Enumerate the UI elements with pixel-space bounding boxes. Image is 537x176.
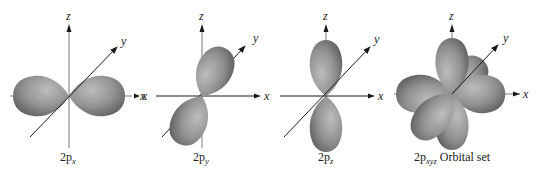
panel-2pxyz: z x y 2pxyz Orbital set — [394, 9, 529, 166]
caption-2pz: 2pz — [318, 150, 334, 166]
y-axis-label: y — [252, 31, 259, 45]
z-arrow-icon — [324, 24, 329, 32]
lobe-negative-x — [13, 76, 69, 117]
z-arrow-icon — [200, 24, 205, 32]
lobe-negative-y — [163, 88, 218, 151]
x-arrow-icon — [254, 94, 261, 99]
panel-2px: z x y 2px — [10, 9, 146, 166]
caption-2py: 2py — [193, 150, 209, 166]
panel-2pz: z x y 2pz — [280, 9, 384, 166]
z-axis-label: z — [198, 9, 204, 23]
panel-2py: z x x y 2py — [141, 9, 270, 166]
z-axis-label: z — [65, 9, 71, 23]
x-axis-label: x — [522, 87, 529, 101]
x-axis-label: x — [377, 89, 384, 103]
x-axis-label: x — [263, 89, 270, 103]
x-neg-axis-label: x — [141, 89, 148, 103]
x-arrow-icon — [368, 94, 375, 99]
x-arrow-icon — [513, 92, 520, 97]
y-axis-label: y — [373, 32, 380, 46]
y-axis-label: y — [502, 31, 509, 45]
caption-2px: 2px — [60, 150, 76, 166]
caption-2pxyz: 2pxyz Orbital set — [414, 150, 491, 166]
y-axis-label: y — [120, 34, 127, 48]
z-axis-label: z — [448, 9, 454, 23]
z-axis-label: z — [322, 9, 328, 23]
z-arrow-icon — [67, 24, 72, 32]
lobe-positive-x — [69, 76, 125, 117]
orbital-diagram: z x y 2px z x x y 2py z — [0, 0, 537, 176]
z-arrow-icon — [450, 24, 455, 32]
lobe-positive-z — [310, 40, 342, 96]
lobe-positive-y — [186, 40, 241, 103]
